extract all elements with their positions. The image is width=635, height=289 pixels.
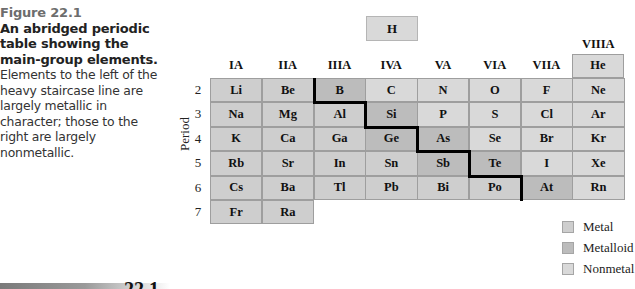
element-k: K (210, 127, 262, 151)
group-header-va: VA (417, 58, 469, 73)
element-sb: Sb (417, 151, 469, 175)
element-c: C (365, 78, 417, 102)
staircase-segment (313, 101, 368, 104)
element-al: Al (314, 102, 366, 126)
element-f: F (521, 78, 573, 102)
element-s: S (469, 102, 521, 126)
element-as: As (417, 127, 469, 151)
group-header-via: VIA (469, 58, 521, 73)
element-ra: Ra (262, 200, 314, 224)
element-pb: Pb (365, 176, 417, 200)
period-number-3: 3 (192, 106, 204, 122)
element-ne: Ne (572, 78, 624, 102)
element-cs: Cs (210, 176, 262, 200)
legend-label: Metalloid (583, 240, 634, 256)
legend-item-metal: Metal (562, 219, 613, 235)
element-ca: Ca (262, 127, 314, 151)
figure-caption: Figure 22.1 An abridged periodic table s… (0, 5, 162, 160)
element-kr: Kr (572, 127, 624, 151)
period-number-7: 7 (192, 204, 204, 220)
group-header-iiia: IIIA (314, 58, 366, 73)
element-br: Br (521, 127, 573, 151)
element-b: B (314, 78, 366, 102)
period-number-2: 2 (192, 82, 204, 98)
element-na: Na (210, 102, 262, 126)
period-number-6: 6 (192, 180, 204, 196)
group-header-ia: IA (210, 58, 262, 73)
staircase-segment (520, 175, 523, 201)
element-po: Po (469, 176, 521, 200)
figure-number: Figure 22.1 (0, 5, 162, 21)
element-i: I (521, 151, 573, 175)
element-h: H (366, 16, 418, 41)
element-o: O (469, 78, 521, 102)
staircase-segment (364, 126, 419, 129)
element-ba: Ba (262, 176, 314, 200)
element-ge: Ge (365, 127, 417, 151)
staircase-segment (364, 101, 367, 127)
element-n: N (417, 78, 469, 102)
period-axis-label: Period (177, 116, 193, 152)
figure-description: Elements to the left of the heavy stairc… (0, 67, 157, 160)
element-ga: Ga (314, 127, 366, 151)
figure-title: An abridged periodic table showing the m… (0, 21, 158, 67)
element-he: He (572, 54, 624, 78)
period-number-5: 5 (192, 155, 204, 171)
staircase-segment (468, 150, 471, 176)
element-xe: Xe (572, 151, 624, 175)
element-si: Si (365, 102, 417, 126)
legend-swatch (562, 242, 574, 254)
element-rb: Rb (210, 151, 262, 175)
element-bi: Bi (417, 176, 469, 200)
group-header-iia: IIA (262, 58, 314, 73)
element-li: Li (210, 78, 262, 102)
element-sn: Sn (365, 151, 417, 175)
element-se: Se (469, 127, 521, 151)
group-header-iva: IVA (365, 58, 417, 73)
element-sr: Sr (262, 151, 314, 175)
element-mg: Mg (262, 102, 314, 126)
legend-item-nonmetal: Nonmetal (562, 261, 634, 277)
staircase-segment (416, 126, 419, 152)
group-header-viiia: VIIIA (572, 37, 624, 52)
element-p: P (417, 102, 469, 126)
staircase-segment (468, 175, 523, 178)
element-ar: Ar (572, 102, 624, 126)
element-rn: Rn (572, 176, 624, 200)
element-cl: Cl (521, 102, 573, 126)
legend-swatch (562, 221, 574, 233)
legend-label: Nonmetal (583, 261, 634, 277)
element-tl: Tl (314, 176, 366, 200)
element-be: Be (262, 78, 314, 102)
legend-label: Metal (583, 219, 613, 235)
section-number-partial: 22.1 (124, 279, 159, 289)
legend-swatch (562, 263, 574, 275)
element-in: In (314, 151, 366, 175)
legend-item-metalloid: Metalloid (562, 240, 634, 256)
staircase-segment (416, 150, 471, 153)
period-number-4: 4 (192, 131, 204, 147)
group-header-viia: VIIA (521, 58, 573, 73)
element-fr: Fr (210, 200, 262, 224)
element-te: Te (469, 151, 521, 175)
element-at: At (521, 176, 573, 200)
